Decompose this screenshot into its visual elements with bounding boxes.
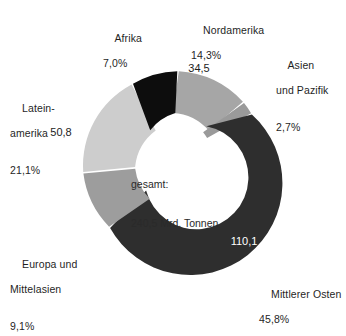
center-total-label: gesamt: 240,5 Mrd. Tonnen [131, 152, 218, 256]
label-asien-und-pazifik-line2: und Pazifik [276, 84, 328, 96]
label-europa-und-mittelasien-percent: 9,1% [10, 320, 77, 332]
label-mittlerer-osten-name: Mittlerer Osten [271, 288, 341, 300]
slice-value-afrika: 16,9 [140, 55, 161, 67]
label-nordamerika: Nordamerika 14,3% [191, 12, 264, 86]
center-total-line1: gesamt: [131, 178, 218, 191]
label-europa-und-mittelasien-line1: Europa und [22, 258, 77, 270]
slice-value-asien-und-pazifik: 6,4 [256, 84, 275, 103]
label-afrika-percent: 7,0% [103, 57, 142, 69]
label-afrika-name: Afrika [115, 32, 142, 44]
center-total-line2: 240,5 Mrd. Tonnen [131, 217, 218, 230]
label-lateinamerika-line2: amerika [10, 127, 55, 139]
label-lateinamerika-line1: Latein- [22, 102, 55, 114]
label-europa-und-mittelasien-line2: Mittelasien [10, 283, 77, 295]
label-lateinamerika: Latein- amerika 21,1% [10, 90, 55, 202]
label-europa-und-mittelasien: Europa und Mittelasien 9,1% [10, 246, 77, 336]
label-nordamerika-name: Nordamerika [203, 24, 264, 36]
slice-value-mittlerer-osten: 110,1 [231, 235, 258, 247]
label-afrika: Afrika 7,0% [103, 20, 142, 94]
label-mittlerer-osten-percent: 45,8% [259, 313, 341, 325]
label-asien-und-pazifik-line1: Asien [288, 59, 315, 71]
label-nordamerika-percent: 14,3% [191, 49, 264, 61]
slice-value-europa-und-mittelasien: 21,8 [77, 212, 100, 228]
label-mittlerer-osten: Mittlerer Osten 45,8% [259, 276, 341, 336]
label-asien-und-pazifik: Asien und Pazifik 2,7% [276, 47, 328, 159]
label-lateinamerika-percent: 21,1% [10, 164, 55, 176]
label-asien-und-pazifik-percent: 2,7% [276, 121, 328, 133]
